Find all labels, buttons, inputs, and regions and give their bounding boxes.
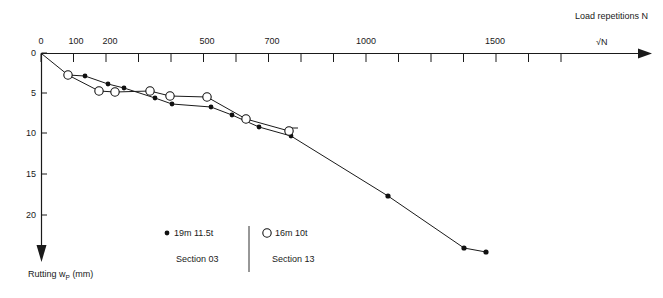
x-axis-ticks xyxy=(41,54,561,63)
svg-text:Rutting wP (mm): Rutting wP (mm) xyxy=(28,269,93,281)
data-point xyxy=(170,102,175,107)
x-axis-title: Load repetitions N xyxy=(575,11,648,21)
data-point xyxy=(111,88,119,96)
legend-label-series-2: 16m 10t xyxy=(275,228,308,238)
data-point xyxy=(64,71,72,79)
legend-section-series-1: Section 03 xyxy=(176,254,219,264)
x-tick-label-100: 100 xyxy=(68,36,83,46)
data-point xyxy=(203,93,211,101)
y-tick-label-15: 15 xyxy=(26,169,36,179)
legend: 19m 11.5t Section 03 16m 10t Section 13 xyxy=(165,226,315,272)
data-point xyxy=(166,92,174,100)
data-point xyxy=(257,125,262,130)
y-tick-label-20: 20 xyxy=(26,210,36,220)
y-axis-title: Rutting wP (mm) xyxy=(28,269,93,281)
data-point xyxy=(209,105,214,110)
y-axis-arrow xyxy=(37,245,47,262)
data-point xyxy=(95,87,103,95)
data-point xyxy=(122,86,127,91)
y-tick-label-10: 10 xyxy=(26,128,36,138)
x-tick-label-1500: 1500 xyxy=(485,36,505,46)
y-tick-label-0: 0 xyxy=(31,48,36,58)
x-tick-label-500: 500 xyxy=(199,36,214,46)
y-tick-label-5: 5 xyxy=(31,88,36,98)
chart-svg: 0 100 200 500 700 1000 1500 Load repetit… xyxy=(0,0,663,298)
x-tick-label-0: 0 xyxy=(38,36,43,46)
data-point xyxy=(285,127,293,135)
x-tick-label-1000: 1000 xyxy=(356,36,376,46)
y-axis: 0 5 10 15 20 xyxy=(26,48,47,262)
y-axis-title-main: Rutting w xyxy=(28,269,66,279)
legend-marker-filled-circle xyxy=(165,231,170,236)
x-tick-label-200: 200 xyxy=(102,36,117,46)
data-point xyxy=(146,87,154,95)
y-axis-ticks xyxy=(42,53,48,215)
data-point xyxy=(230,113,235,118)
legend-label-series-1: 19m 11.5t xyxy=(174,228,214,238)
data-point xyxy=(83,74,88,79)
data-point xyxy=(242,115,250,123)
y-axis-title-tail: (mm) xyxy=(70,269,94,279)
rutting-chart: 0 100 200 500 700 1000 1500 Load repetit… xyxy=(0,0,663,298)
x-axis: 0 100 200 500 700 1000 1500 xyxy=(38,36,652,62)
data-point xyxy=(106,82,111,87)
data-point xyxy=(461,245,466,250)
legend-marker-open-circle xyxy=(263,229,271,237)
legend-section-series-2: Section 13 xyxy=(272,254,315,264)
data-point xyxy=(483,249,488,254)
data-point xyxy=(385,193,390,198)
x-axis-unit-label: √N xyxy=(596,37,607,47)
x-axis-arrow xyxy=(638,49,652,59)
data-point xyxy=(153,96,158,101)
x-tick-label-700: 700 xyxy=(264,36,279,46)
